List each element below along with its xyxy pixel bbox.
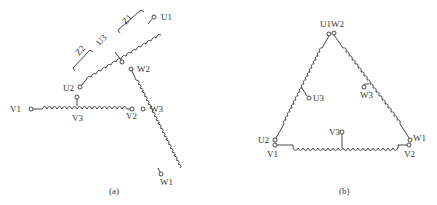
terminal-u1-b — [327, 32, 331, 36]
label-v1-b: V1 — [267, 149, 278, 159]
figure-a: Z2 U3 Z1 U1 U2 V1 V3 V2 — [10, 10, 181, 196]
label-u3-a: U3 — [94, 32, 109, 47]
terminal-v1-b — [273, 143, 277, 147]
terminal-u2-b — [273, 138, 277, 142]
label-w1-a: W1 — [160, 177, 173, 187]
caption-a: (a) — [109, 186, 119, 196]
terminal-v2-b — [407, 143, 411, 147]
caption-b: (b) — [339, 186, 350, 196]
u-winding-b — [273, 36, 329, 142]
label-u2-a: U2 — [63, 83, 74, 93]
label-u2-b: U2 — [258, 135, 269, 145]
label-w2-a: W2 — [137, 64, 150, 74]
w-winding — [129, 67, 181, 176]
terminal-w1-b — [408, 138, 412, 142]
terminal-v3-b — [340, 130, 344, 134]
label-v2-b: V2 — [404, 149, 415, 159]
label-u3-b: U3 — [313, 93, 324, 103]
label-v3-a: V3 — [72, 113, 83, 123]
label-w1-b: W1 — [413, 133, 426, 143]
w-winding-b — [334, 35, 412, 142]
v-winding — [29, 95, 134, 111]
v-winding-b — [273, 130, 411, 151]
figure-b: U1W2 U3 W3 V3 U2 V1 V2 W1 (b) — [258, 19, 426, 196]
terminal-v1 — [29, 107, 33, 111]
label-u1-a: U1 — [161, 12, 172, 22]
terminal-v3 — [75, 95, 79, 99]
label-z1: Z1 — [120, 12, 134, 26]
label-w3-a: W3 — [150, 104, 163, 114]
label-w3-b: W3 — [360, 90, 373, 100]
label-v2-a: V2 — [126, 111, 137, 121]
terminal-u2 — [78, 85, 82, 89]
terminal-w2-b — [332, 31, 336, 35]
terminal-w3-b — [362, 85, 366, 89]
label-u1w2-b: U1W2 — [320, 19, 344, 29]
terminal-u1 — [152, 15, 156, 19]
z-brackets: Z2 U3 Z1 — [73, 10, 144, 71]
label-v3-b: V3 — [329, 127, 340, 137]
terminal-u3 — [120, 60, 124, 64]
terminal-w2 — [129, 67, 133, 71]
terminal-w1 — [159, 172, 163, 176]
terminal-u3-b — [307, 96, 311, 100]
label-v1-a: V1 — [10, 104, 21, 114]
winding-diagram: Z2 U3 Z1 U1 U2 V1 V3 V2 — [0, 0, 437, 205]
u-winding — [78, 15, 161, 89]
terminal-w3 — [141, 107, 145, 111]
